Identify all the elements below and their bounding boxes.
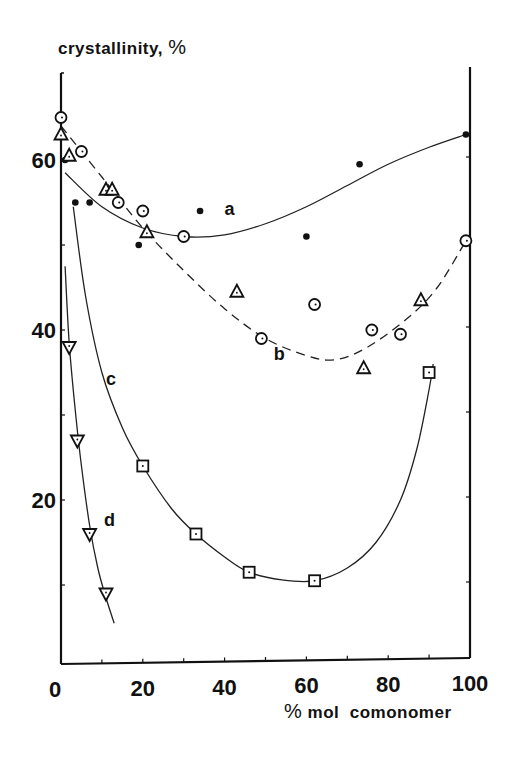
chart-canvas: 204060020406080100 abcd (0, 0, 510, 761)
marker-a-dot (72, 199, 79, 206)
marker-b-circle-center (315, 304, 317, 306)
marker-b-triangle-center (236, 292, 238, 294)
marker-b-circle-center (184, 236, 186, 238)
x-axis-title-unit: % (284, 700, 302, 722)
y-axis-title-text: crystallinity, (58, 39, 163, 58)
marker-b-triangle (55, 128, 68, 140)
curve-label-d: d (104, 510, 115, 530)
marker-b-triangle-center (146, 232, 148, 234)
marker-b-circle-center (61, 117, 63, 119)
y-tick-label: 40 (32, 318, 56, 343)
marker-b-triangle (63, 149, 76, 161)
marker-b-circle-center (118, 202, 120, 204)
marker-b-triangle-center (420, 300, 422, 302)
x-tick-label: 20 (131, 676, 155, 701)
y-tick-label: 20 (32, 488, 56, 513)
marker-d-inverted-triangle (83, 529, 96, 541)
marker-b-circle-center (81, 151, 83, 153)
curve-c (73, 207, 433, 582)
marker-c-square-center (195, 533, 197, 535)
curve-label-c: c (106, 369, 116, 389)
curve-label-b: b (274, 344, 285, 364)
marker-a-dot (86, 199, 93, 206)
marker-b-triangle-center (363, 368, 365, 370)
data-markers (55, 112, 472, 601)
marker-c-square-center (428, 372, 430, 374)
marker-a-dot (135, 242, 142, 249)
curve-a (65, 135, 466, 238)
marker-d-inverted-triangle (99, 589, 112, 601)
marker-b-triangle (357, 361, 370, 373)
marker-b-circle-center (400, 333, 402, 335)
x-axis-title-text: mol comonomer (308, 703, 452, 722)
marker-b-circle-center (372, 329, 374, 331)
marker-c-square-center (248, 571, 250, 573)
y-axis-title-unit: % (168, 36, 186, 58)
marker-a-dot (356, 161, 363, 168)
x-tick-label: 40 (212, 675, 236, 700)
curve-b (61, 126, 466, 360)
marker-a-dot (197, 208, 204, 215)
marker-b-triangle-center (68, 156, 70, 158)
tick-labels: 204060020406080100 (32, 148, 489, 702)
marker-b-circle-center (466, 240, 468, 242)
axes (61, 67, 470, 664)
marker-d-inverted-triangle-center (89, 532, 91, 534)
curve-annotations: abcd (104, 199, 285, 529)
marker-b-triangle (230, 285, 243, 297)
y-tick-label: 60 (32, 148, 56, 173)
marker-b-triangle-center (60, 135, 62, 137)
marker-a-dot (463, 131, 470, 138)
marker-d-inverted-triangle (71, 436, 84, 448)
marker-b-triangle (414, 293, 427, 305)
marker-b-circle-center (143, 210, 145, 212)
marker-c-square-center (142, 465, 144, 467)
x-tick-label: 60 (294, 673, 318, 698)
x-tick-label: 0 (49, 677, 61, 702)
y-axis-title: crystallinity, % (58, 36, 186, 59)
marker-c-square-center (314, 580, 316, 582)
marker-d-inverted-triangle-center (68, 345, 70, 347)
x-tick-label: 80 (376, 672, 400, 697)
x-axis-title: % mol comonomer (284, 700, 452, 723)
x-tick-label: 100 (452, 671, 489, 696)
marker-b-circle-center (261, 338, 263, 340)
marker-d-inverted-triangle-center (105, 592, 107, 594)
marker-a-dot (303, 233, 310, 240)
curve-label-a: a (225, 199, 236, 219)
marker-d-inverted-triangle-center (76, 439, 78, 441)
marker-d-inverted-triangle (63, 342, 76, 354)
marker-b-triangle-center (111, 190, 113, 192)
